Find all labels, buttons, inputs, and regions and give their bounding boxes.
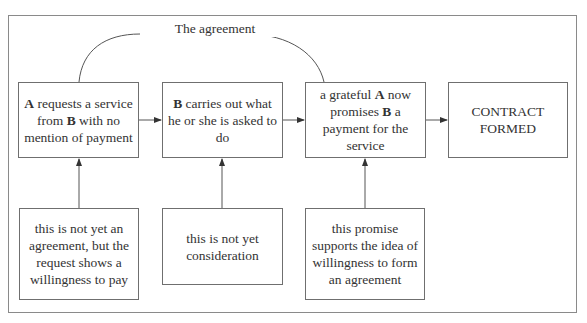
step-text: CONTRACT FORMED <box>453 103 563 137</box>
step-box-request: A requests a service from B with no ment… <box>18 82 139 158</box>
note-box-willingness-to-pay: this is not yet an agreement, but the re… <box>19 208 139 300</box>
step-text: a grateful A now promises B a payment fo… <box>310 86 421 154</box>
note-box-promise-supports: this promise supports the idea of willin… <box>305 208 425 300</box>
agreement-arc-left <box>79 34 140 82</box>
step-box-promise: a grateful A now promises B a payment fo… <box>305 82 426 158</box>
agreement-arc-right <box>247 34 324 82</box>
note-box-not-consideration: this is not yet consideration <box>162 208 283 285</box>
step-box-carry-out: B carries out what he or she is asked to… <box>162 82 283 158</box>
step-text: B carries out what he or she is asked to… <box>167 95 278 146</box>
agreement-label: The agreement <box>155 21 275 37</box>
step-text: A requests a service from B with no ment… <box>23 95 134 146</box>
step-box-contract-formed: CONTRACT FORMED <box>448 82 568 158</box>
